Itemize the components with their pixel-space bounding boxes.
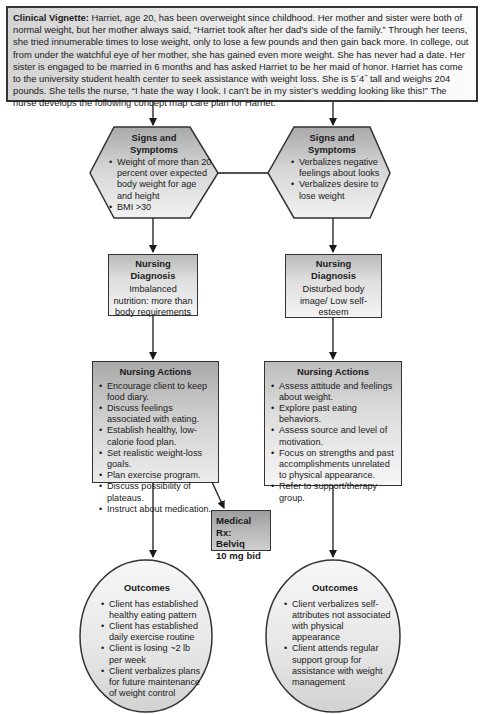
left-action-item: Encourage client to keep food diary. <box>98 381 213 403</box>
vignette-text: Harriet, age 20, has been overweight sin… <box>13 12 468 108</box>
right-action-item: Assess attitude and feelings about weigh… <box>270 381 396 403</box>
left-action-item: Establish healthy, low-calorie food plan… <box>98 425 213 447</box>
left-outcome-item: Client verbalizes plans for future maint… <box>100 666 200 700</box>
right-outcomes-title: Outcomes <box>279 582 391 594</box>
left-outcome-item: Client has established healthy eating pa… <box>100 599 200 621</box>
left-action-item: Plan exercise program. <box>98 470 213 481</box>
left-action-item: Discuss feelings associated with eating. <box>98 403 213 425</box>
right-signs-title: Signs and Symptoms <box>292 132 372 155</box>
left-signs-title: Signs and Symptoms <box>108 132 200 155</box>
right-diagnosis-title: Nursing Diagnosis <box>299 258 369 281</box>
right-signs-list: Verbalizes negative feelings about looks… <box>290 157 382 202</box>
left-action-item: Instruct about medication. <box>98 504 213 515</box>
right-actions-list: Assess attitude and feelings about weigh… <box>270 381 396 504</box>
medical-rx-drug: Belviq <box>216 538 266 550</box>
left-diagnosis-text: Imbalanced nutrition: more than body req… <box>112 284 194 319</box>
left-outcomes-title: Outcomes <box>94 582 200 594</box>
left-outcomes-content: Outcomes Client has established healthy … <box>100 582 200 699</box>
left-outcome-item: Client is losing ~2 lb per week <box>100 643 200 665</box>
right-signs-content: Signs and Symptoms Verbalizes negative f… <box>290 132 382 202</box>
medical-rx-box: Medical Rx: Belviq 10 mg bid <box>211 510 271 551</box>
right-outcomes-content: Outcomes Client verbalizes self-attribut… <box>283 582 391 688</box>
left-signs-list: Weight of more than 20 percent over expe… <box>108 157 212 213</box>
medical-rx-label: Medical Rx: <box>216 515 266 538</box>
left-signs-content: Signs and Symptoms Weight of more than 2… <box>108 132 212 213</box>
right-outcome-item: Client verbalizes self-attributes not as… <box>283 599 391 644</box>
right-action-item: Explore past eating behaviors. <box>270 403 396 425</box>
right-actions-title: Nursing Actions <box>270 366 396 378</box>
left-diagnosis-title: Nursing Diagnosis <box>118 258 188 281</box>
left-signs-item: BMI >30 <box>108 202 212 213</box>
left-action-item: Set realistic weight-loss goals. <box>98 448 213 470</box>
left-nursing-diagnosis-box: Nursing Diagnosis Imbalanced nutrition: … <box>108 254 198 316</box>
right-nursing-actions-box: Nursing Actions Assess attitude and feel… <box>264 361 402 486</box>
left-actions-list: Encourage client to keep food diary. Dis… <box>98 381 213 515</box>
left-outcome-item: Client has established daily exercise ro… <box>100 621 200 643</box>
arrow-actions-to-medical-rx <box>212 482 224 508</box>
right-action-item: Refer to support/therapy group. <box>270 481 396 503</box>
right-signs-item: Verbalizes negative feelings about looks <box>290 157 382 179</box>
right-diagnosis-text: Disturbed body image/ Low self-esteem <box>294 284 374 319</box>
left-outcomes-list: Client has established healthy eating pa… <box>100 599 200 700</box>
vignette-label: Clinical Vignette: <box>13 12 89 23</box>
right-action-item: Focus on strengths and past accomplishme… <box>270 448 396 482</box>
right-signs-item: Verbalizes desire to lose weight <box>290 179 382 201</box>
right-action-item: Assess source and level of motivation. <box>270 425 396 447</box>
left-action-item: Discuss possibility of plateaus. <box>98 481 213 503</box>
right-nursing-diagnosis-box: Nursing Diagnosis Disturbed body image/ … <box>285 254 382 318</box>
left-nursing-actions-box: Nursing Actions Encourage client to keep… <box>92 361 219 483</box>
medical-rx-dose: 10 mg bid <box>216 550 266 562</box>
clinical-vignette-box: Clinical Vignette: Harriet, age 20, has … <box>6 6 478 102</box>
left-actions-title: Nursing Actions <box>98 366 213 378</box>
right-outcomes-list: Client verbalizes self-attributes not as… <box>283 599 391 689</box>
left-signs-item: Weight of more than 20 percent over expe… <box>108 157 212 202</box>
right-outcome-item: Client attends regular support group for… <box>283 643 391 688</box>
